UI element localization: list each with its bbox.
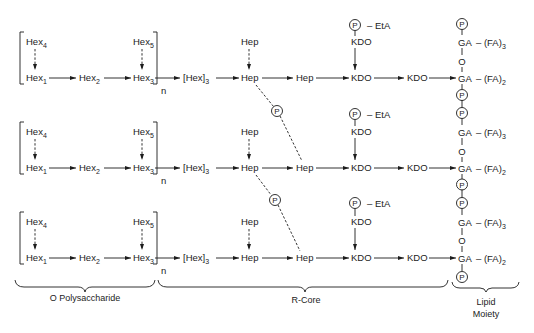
fatty-acid-top: – (FA)3 xyxy=(476,127,506,140)
fatty-acid-bottom: – (FA)2 xyxy=(476,253,506,266)
eta-phosphate-label: P xyxy=(352,21,357,30)
hep-phosphate-crosslink-2: P xyxy=(256,175,300,251)
dashed-link xyxy=(256,175,272,196)
brace-o-polysaccharide: O Polysaccharide xyxy=(15,280,155,303)
curly-brace xyxy=(158,280,448,292)
lipid-a-column: P GA – (FA)3 O GA – (FA)2 P xyxy=(457,19,506,101)
fatty-acid-top: – (FA)3 xyxy=(476,37,506,50)
repeat-count-n: n xyxy=(161,175,166,186)
kdo2-node: KDO xyxy=(407,252,428,263)
kdo-branch-node: KDO xyxy=(351,36,372,47)
hep-branch-node: Hep xyxy=(241,126,258,137)
hep2-node: Hep xyxy=(296,252,313,263)
kdo1-node: KDO xyxy=(351,162,372,173)
repeat-bracket-right xyxy=(153,212,157,264)
hex5-node: Hex5 xyxy=(133,126,154,139)
hex1-node: Hex1 xyxy=(26,72,47,85)
hep2-node: Hep xyxy=(296,72,313,83)
lps-row-2: Hex4 Hex1 Hex2 Hex3 Hex5 n [Hex]3 Hep He… xyxy=(20,108,506,191)
lipid-phosphate-bottom: P xyxy=(459,91,464,100)
ethanolamine-label: – EtA xyxy=(367,198,391,209)
hex3-node: Hex3 xyxy=(133,162,154,175)
kdo-branch-node: KDO xyxy=(351,216,372,227)
fatty-acid-bottom: – (FA)2 xyxy=(476,163,506,176)
section-label-moiety: Moiety xyxy=(473,309,500,319)
glucosamine-top: GA xyxy=(458,37,472,48)
glycosidic-oxygen: O xyxy=(458,235,465,246)
lipid-phosphate-top: P xyxy=(459,199,464,208)
ethanolamine-label: – EtA xyxy=(367,20,391,31)
lipid-phosphate-bottom: P xyxy=(459,273,464,282)
repeat-bracket-left xyxy=(20,212,24,264)
glucosamine-bottom: GA xyxy=(458,253,472,264)
hex5-node: Hex5 xyxy=(133,216,154,229)
brace-r-core: R-Core xyxy=(158,280,448,305)
dashed-link xyxy=(256,85,274,107)
hex3-node: Hex3 xyxy=(133,252,154,265)
hex1-node: Hex1 xyxy=(26,252,47,265)
kdo1-node: KDO xyxy=(351,72,372,83)
lipid-a-column: P GA – (FA)3 O GA – (FA)2 P xyxy=(457,198,506,283)
hex-trimer-node: [Hex]3 xyxy=(183,72,209,85)
section-label-r-core: R-Core xyxy=(291,295,320,305)
glycosidic-oxygen: O xyxy=(458,56,465,67)
repeat-bracket-left xyxy=(20,122,24,174)
section-label-lipid: Lipid xyxy=(476,297,495,307)
repeat-bracket-right xyxy=(153,32,157,84)
crosslink-phosphate-label: P xyxy=(274,107,279,116)
hex4-node: Hex4 xyxy=(26,126,47,139)
kdo-branch-node: KDO xyxy=(351,126,372,137)
hex-trimer-node: [Hex]3 xyxy=(183,252,209,265)
hex2-node: Hex2 xyxy=(79,252,100,265)
hep2-node: Hep xyxy=(296,162,313,173)
repeat-bracket-left xyxy=(20,32,24,84)
hep1-node: Hep xyxy=(241,252,258,263)
hex1-node: Hex1 xyxy=(26,162,47,175)
hep-branch-node: Hep xyxy=(241,216,258,227)
glucosamine-top: GA xyxy=(458,217,472,228)
curly-brace xyxy=(15,280,155,292)
brace-lipid-moiety: Lipid Moiety xyxy=(452,282,519,319)
lps-row-1: Hex4 Hex1 Hex2 Hex3 Hex5 n [Hex]3 Hep He… xyxy=(20,19,506,101)
fatty-acid-top: – (FA)3 xyxy=(476,217,506,230)
kdo1-node: KDO xyxy=(351,252,372,263)
fatty-acid-bottom: – (FA)2 xyxy=(476,73,506,86)
section-label-o-polysaccharide: O Polysaccharide xyxy=(50,293,121,303)
hex4-node: Hex4 xyxy=(26,216,47,229)
glucosamine-bottom: GA xyxy=(458,73,472,84)
lps-structure-diagram: Hex4 Hex1 Hex2 Hex3 Hex5 n [Hex]3 Hep He… xyxy=(0,0,534,333)
hep-branch-node: Hep xyxy=(241,36,258,47)
hep1-node: Hep xyxy=(241,72,258,83)
kdo2-node: KDO xyxy=(407,72,428,83)
dashed-link xyxy=(280,116,302,161)
eta-phosphate-label: P xyxy=(352,110,357,119)
curly-brace xyxy=(452,282,519,292)
lipid-phosphate-top: P xyxy=(459,20,464,29)
hex2-node: Hex2 xyxy=(79,72,100,85)
eta-phosphate-label: P xyxy=(352,199,357,208)
lipid-a-column: P GA – (FA)3 O GA – (FA)2 P xyxy=(457,108,506,191)
glucosamine-top: GA xyxy=(458,127,472,138)
hex3-node: Hex3 xyxy=(133,72,154,85)
glucosamine-bottom: GA xyxy=(458,163,472,174)
lipid-phosphate-top: P xyxy=(459,109,464,118)
repeat-count-n: n xyxy=(161,85,166,96)
hex5-node: Hex5 xyxy=(133,36,154,49)
hex2-node: Hex2 xyxy=(79,162,100,175)
glycosidic-oxygen: O xyxy=(458,146,465,157)
hep-phosphate-crosslink-1: P xyxy=(256,85,302,161)
hex-trimer-node: [Hex]3 xyxy=(183,162,209,175)
repeat-count-n: n xyxy=(161,265,166,276)
dashed-link xyxy=(278,205,300,251)
ethanolamine-label: – EtA xyxy=(367,109,391,120)
hep1-node: Hep xyxy=(241,162,258,173)
lipid-phosphate-bottom: P xyxy=(459,181,464,190)
hex4-node: Hex4 xyxy=(26,36,47,49)
lps-row-3: Hex4 Hex1 Hex2 Hex3 Hex5 n [Hex]3 Hep He… xyxy=(20,198,506,283)
kdo2-node: KDO xyxy=(407,162,428,173)
crosslink-phosphate-label: P xyxy=(272,196,277,205)
repeat-bracket-right xyxy=(153,122,157,174)
